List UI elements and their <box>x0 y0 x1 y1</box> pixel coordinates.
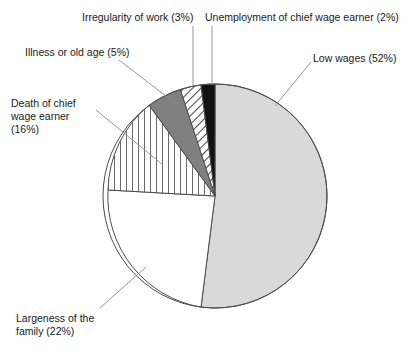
leader-line-low-wages <box>275 62 311 106</box>
leader-line-illness <box>119 60 175 103</box>
slice-label-death-of-chief-wage-earner: Death of chief wage earner (16%) <box>11 97 76 136</box>
pie-slice-low-wages[interactable] <box>201 84 327 308</box>
slice-label-illness-or-old-age: Illness or old age (5%) <box>25 46 129 59</box>
slice-label-irregularity-of-work: Irregularity of work (3%) <box>82 11 193 24</box>
pie-slices <box>108 84 327 308</box>
pie-slice-largeness-of-family[interactable] <box>108 190 215 307</box>
leader-line-largeness <box>100 267 146 308</box>
slice-label-unemployment-of-chief-wage-earner: Unemployment of chief wage earner (2%) <box>205 11 399 24</box>
slice-label-largeness-of-family: Largeness of the family (22%) <box>16 312 94 338</box>
slice-label-low-wages: Low wages (52%) <box>313 52 396 65</box>
